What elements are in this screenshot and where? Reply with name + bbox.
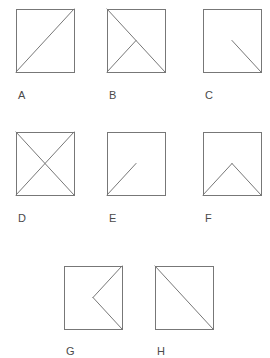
figure-cell-f xyxy=(203,132,261,195)
segment-center-to-bottom-right xyxy=(232,41,261,73)
figure-cell-a xyxy=(16,9,74,72)
figure-label-f: F xyxy=(205,211,212,225)
figure-label-b: B xyxy=(109,88,117,102)
figure-cell-h xyxy=(155,266,213,329)
figure-cell-d xyxy=(16,132,74,195)
figure-square-f xyxy=(203,132,262,196)
figure-sheet: ABCDEFGH xyxy=(0,0,270,358)
figure-cell-g xyxy=(64,266,122,329)
diagonal-bottom-left-to-top-right xyxy=(16,9,74,72)
figure-square-c xyxy=(203,9,262,73)
figure-label-g: G xyxy=(66,344,75,358)
figure-label-d: D xyxy=(18,211,26,225)
diagonal-top-left-to-bottom-right xyxy=(155,266,213,329)
figure-label-h: H xyxy=(157,344,165,358)
figure-square-h xyxy=(155,266,214,330)
figure-square-b xyxy=(107,9,166,73)
segment-center-to-bottom-right xyxy=(232,164,261,196)
segment-bottom-left-to-center xyxy=(203,164,232,196)
segment-bottom-left-to-center xyxy=(107,164,136,196)
figure-label-c: C xyxy=(205,88,213,102)
figure-square-g xyxy=(64,266,123,330)
figure-label-e: E xyxy=(109,211,117,225)
figure-cell-e xyxy=(107,132,165,195)
figure-square-d xyxy=(16,132,75,196)
figure-cell-c xyxy=(203,9,261,72)
segment-top-right-to-center xyxy=(93,266,122,298)
figure-cell-b xyxy=(107,9,165,72)
figure-square-e xyxy=(107,132,166,196)
segment-bottom-left-to-center xyxy=(107,41,136,73)
figure-square-a xyxy=(16,9,75,73)
segment-center-to-bottom-right xyxy=(93,298,122,330)
figure-label-a: A xyxy=(18,88,26,102)
